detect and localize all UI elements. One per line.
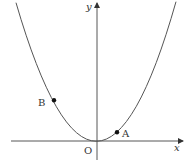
point-a-label: A: [121, 128, 130, 139]
origin-label: O: [84, 145, 92, 156]
point-a-marker: [115, 130, 119, 134]
y-axis-label: y: [85, 1, 92, 12]
point-b-label: B: [38, 97, 45, 108]
parabola-diagram: B A O x y: [0, 0, 195, 168]
point-b-marker: [52, 98, 56, 102]
x-axis-label: x: [174, 142, 180, 153]
parabola-curve: [16, 2, 176, 142]
